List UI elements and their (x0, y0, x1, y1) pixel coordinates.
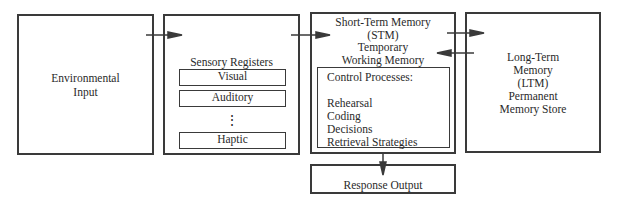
arrow-stm-to-ltm (447, 30, 484, 36)
arrow-sensory-to-stm (291, 32, 330, 38)
arrow-stm-to-response (380, 153, 386, 175)
arrow-ltm-to-stm (437, 50, 474, 56)
arrow-env-to-sensory (146, 32, 182, 38)
arrows-layer (0, 0, 617, 202)
